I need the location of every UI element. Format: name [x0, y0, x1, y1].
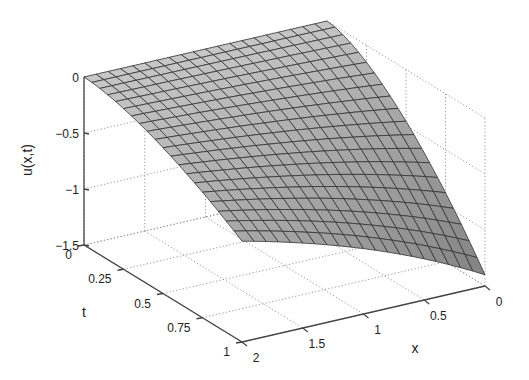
x-tick — [424, 300, 429, 304]
t-tick-label: 0 — [65, 248, 72, 262]
t-tick — [197, 318, 203, 319]
z-axis-label: u(x,t) — [19, 144, 35, 176]
t-tick — [118, 269, 124, 270]
t-axis-label: t — [82, 304, 86, 320]
floor-grid-line — [203, 262, 446, 318]
x-tick-label: 0.5 — [430, 309, 447, 323]
x-tick — [303, 328, 308, 332]
x-tick-label: 1 — [374, 323, 381, 337]
z-tick-label: 0 — [72, 71, 79, 85]
x-tick-label: 0 — [496, 295, 503, 309]
t-tick-label: 0.75 — [167, 321, 191, 335]
z-tick-label: −0.5 — [55, 127, 79, 141]
surface-plot: 0−0.5−1−1.500.250.50.75100.511.52 u(x,t)… — [0, 0, 529, 380]
x-axis-label: x — [412, 340, 419, 356]
x-tick-label: 1.5 — [308, 337, 325, 351]
t-tick-label: 0.5 — [134, 297, 151, 311]
t-tick-label: 1 — [223, 345, 230, 359]
t-tick — [157, 294, 163, 295]
t-tick-label: 0.25 — [88, 272, 112, 286]
x-tick — [364, 314, 369, 318]
x-tick — [485, 286, 490, 290]
x-tick-label: 2 — [253, 351, 260, 365]
z-tick-label: −1 — [65, 183, 79, 197]
surface-mesh — [84, 21, 485, 275]
t-tick — [236, 342, 242, 343]
z-tick — [84, 133, 89, 134]
x-tick — [242, 342, 247, 346]
z-tick — [84, 189, 89, 190]
